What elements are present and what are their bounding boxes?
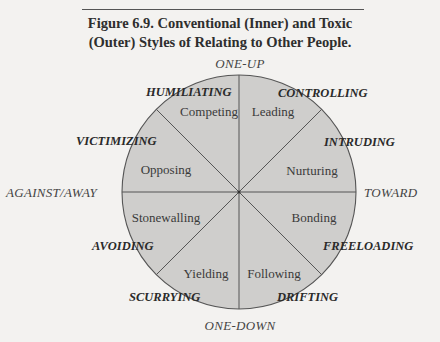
inner-label-leading: Leading — [252, 104, 295, 119]
axis-label-right: TOWARD — [364, 185, 418, 200]
outer-label-scurrying: SCURRYING — [129, 290, 200, 304]
axis-label-top: ONE-UP — [215, 56, 264, 71]
outer-label-drifting: DRIFTING — [276, 290, 338, 304]
center-point — [238, 191, 241, 194]
outer-label-controlling: CONTROLLING — [278, 86, 368, 100]
inner-label-competing: Competing — [180, 104, 238, 119]
outer-label-victimizing: VICTIMIZING — [76, 134, 157, 148]
outer-label-humiliating: HUMILIATING — [145, 85, 231, 99]
inner-label-yielding: Yielding — [184, 266, 229, 281]
inner-label-following: Following — [247, 266, 301, 281]
outer-label-avoiding: AVOIDING — [91, 239, 154, 253]
inner-label-opposing: Opposing — [141, 162, 192, 177]
inner-label-bonding: Bonding — [292, 210, 337, 225]
inner-label-stonewalling: Stonewalling — [132, 210, 201, 225]
outer-label-intruding: INTRUDING — [323, 135, 395, 149]
inner-label-nurturing: Nurturing — [286, 163, 338, 178]
relating-styles-wheel: ONE-UP ONE-DOWN AGAINST/AWAY TOWARD Comp… — [0, 0, 440, 342]
axis-label-left: AGAINST/AWAY — [5, 185, 99, 200]
outer-label-freeloading: FREELOADING — [322, 239, 413, 253]
axis-label-bottom: ONE-DOWN — [204, 318, 276, 333]
